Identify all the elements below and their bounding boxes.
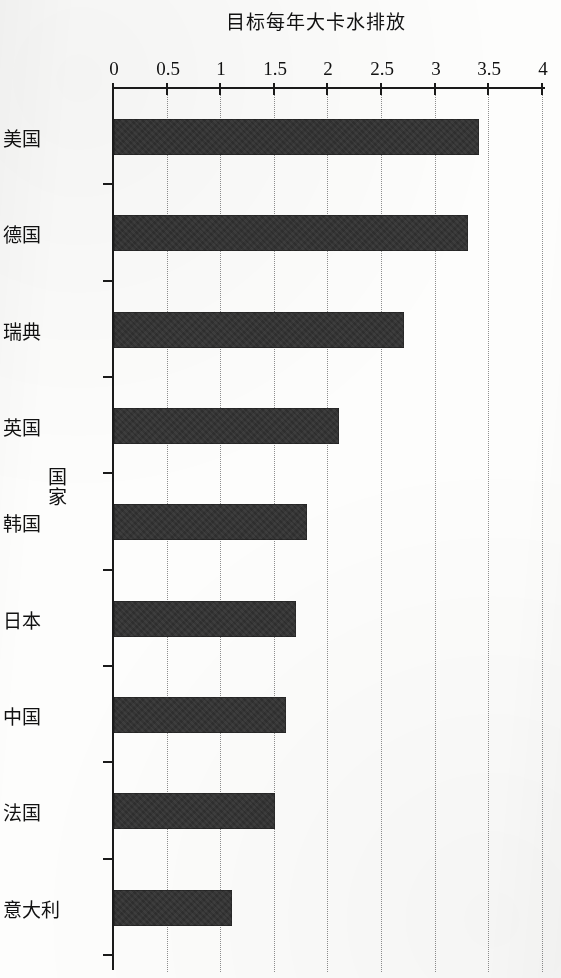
bar	[114, 697, 286, 733]
value-tick	[380, 83, 382, 95]
value-tick-label: 1	[198, 59, 244, 78]
category-tick	[103, 858, 114, 860]
value-tick	[273, 83, 275, 95]
category-tick	[103, 761, 114, 763]
bar	[114, 312, 404, 348]
value-tick-label: 3	[413, 59, 459, 78]
gridline	[488, 89, 489, 972]
category-tick	[103, 665, 114, 667]
value-tick	[434, 83, 436, 95]
value-tick	[219, 83, 221, 95]
bar	[114, 119, 479, 155]
category-label: 韩国	[3, 515, 99, 534]
category-axis-line	[112, 87, 545, 89]
rotated-page-wrapper: 00.511.522.533.54 美国德国瑞典英国韩国日本中国法国意大利 目标…	[0, 0, 561, 978]
bar-chart-figure: 00.511.522.533.54 美国德国瑞典英国韩国日本中国法国意大利 目标…	[0, 0, 561, 978]
category-tick	[103, 183, 114, 185]
gridline	[542, 89, 543, 972]
category-label: 法国	[3, 804, 99, 823]
value-tick-label: 2	[306, 59, 352, 78]
value-axis-title: 目标每年大卡水排放	[166, 7, 466, 34]
value-tick	[327, 83, 329, 95]
category-label: 美国	[3, 130, 99, 149]
value-tick	[487, 83, 489, 95]
category-axis-title: 国家	[40, 468, 74, 508]
category-tick	[103, 376, 114, 378]
value-tick-label: 0	[91, 59, 137, 78]
category-label: 瑞典	[3, 322, 99, 341]
bar	[114, 601, 296, 637]
bar	[114, 216, 468, 252]
category-tick	[103, 472, 114, 474]
category-label: 中国	[3, 708, 99, 727]
category-tick	[103, 280, 114, 282]
value-tick	[541, 83, 543, 95]
value-tick-label: 4	[520, 59, 561, 78]
bar	[114, 408, 339, 444]
category-label: 英国	[3, 419, 99, 438]
category-label: 德国	[3, 226, 99, 245]
category-label: 日本	[3, 611, 99, 630]
value-tick	[112, 83, 114, 95]
value-tick	[166, 83, 168, 95]
value-tick-label: 3.5	[466, 59, 512, 78]
value-tick-label: 0.5	[145, 59, 191, 78]
bar	[114, 794, 275, 830]
category-tick	[103, 954, 114, 956]
bar	[114, 890, 232, 926]
category-tick	[103, 569, 114, 571]
value-tick-label: 1.5	[252, 59, 298, 78]
bar	[114, 505, 307, 541]
category-label: 意大利	[3, 900, 99, 919]
value-tick-label: 2.5	[359, 59, 405, 78]
